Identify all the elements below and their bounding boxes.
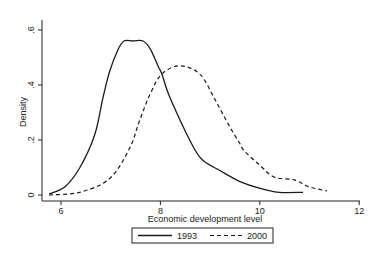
y-axis-ticks: 0.2.4.6 [26, 26, 42, 197]
legend: 1993 2000 [132, 228, 273, 243]
x-tick-label: 6 [58, 206, 63, 216]
series-line-1993 [49, 40, 303, 194]
plot-area: 0.2.4.6 681012 [26, 20, 364, 216]
series-line-2000 [49, 66, 327, 195]
x-axis-title: Economic development level [148, 214, 263, 224]
y-tick-label: .4 [26, 81, 36, 89]
legend-label-2000: 2000 [247, 231, 267, 241]
y-tick-label: .6 [26, 26, 36, 34]
y-tick-label: .2 [26, 136, 36, 144]
y-tick-label: 0 [26, 192, 36, 197]
x-tick-label: 12 [354, 206, 364, 216]
density-chart: 0.2.4.6 681012 Density Economic developm… [0, 0, 384, 261]
legend-label-1993: 1993 [177, 231, 197, 241]
y-axis-title: Density [18, 96, 28, 127]
